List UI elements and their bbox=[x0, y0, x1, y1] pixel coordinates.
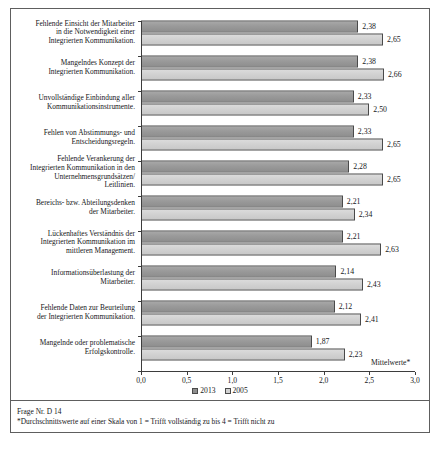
bar-2013[interactable] bbox=[141, 55, 358, 67]
bar-value-label: 2,28 bbox=[349, 162, 367, 171]
bar-value-label: 1,87 bbox=[312, 337, 330, 346]
y-axis-tick bbox=[138, 21, 142, 22]
bar-2013[interactable] bbox=[141, 125, 354, 137]
bar-value-label: 2,66 bbox=[384, 70, 402, 79]
x-axis-tick bbox=[232, 372, 233, 375]
x-axis-tick bbox=[278, 372, 279, 375]
footnote-scale-note: *Durchschnittswerte auf einer Skala von … bbox=[17, 417, 274, 427]
x-axis-tick bbox=[141, 372, 142, 375]
y-axis-tick bbox=[138, 231, 142, 232]
x-axis-tick-label: 0,5 bbox=[182, 376, 192, 385]
category-bars: 2,332,50 bbox=[141, 85, 429, 120]
bar-value-label: 2,34 bbox=[355, 210, 373, 219]
y-axis-tick bbox=[138, 196, 142, 197]
category-label: Fehlende Einsicht der Mitarbeiterin die … bbox=[11, 20, 141, 46]
x-axis-tick bbox=[324, 372, 325, 375]
bar-2013[interactable] bbox=[141, 90, 354, 102]
bar-value-label: 2,50 bbox=[369, 105, 387, 114]
bar-2005[interactable] bbox=[141, 278, 363, 290]
x-axis-tick-label: 0,0 bbox=[136, 376, 146, 385]
bar-value-label: 2,33 bbox=[354, 127, 372, 136]
chart-category-row: Unvollständige Einbindung allerKommunika… bbox=[11, 85, 429, 120]
figure-frame: Fehlende Einsicht der Mitarbeiterin die … bbox=[10, 8, 430, 433]
bar-value-label: 2,38 bbox=[358, 22, 376, 31]
category-bars: 2,212,63 bbox=[141, 225, 429, 260]
chart-category-row: Mangelndes Konzept derIntegrierten Kommu… bbox=[11, 50, 429, 85]
bar-value-label: 2,33 bbox=[354, 92, 372, 101]
category-bars: 2,382,66 bbox=[141, 50, 429, 85]
footnote: Frage Nr. D 14 *Durchschnittswerte auf e… bbox=[17, 407, 274, 426]
y-axis-tick bbox=[138, 161, 142, 162]
x-axis-tick bbox=[415, 372, 416, 375]
category-bars: 2,212,34 bbox=[141, 190, 429, 225]
category-label: Bereichs- bzw. Abteilungsdenkender Mitar… bbox=[11, 199, 141, 216]
bar-value-label: 2,65 bbox=[383, 175, 401, 184]
chart-category-row: Bereichs- bzw. Abteilungsdenkender Mitar… bbox=[11, 190, 429, 225]
chart-category-rows: Fehlende Einsicht der Mitarbeiterin die … bbox=[11, 15, 429, 365]
bar-2013[interactable] bbox=[141, 300, 335, 312]
legend-item-2013[interactable]: 2013 bbox=[192, 386, 215, 395]
legend-swatch-icon bbox=[225, 388, 231, 394]
chart-category-row: Fehlende Einsicht der Mitarbeiterin die … bbox=[11, 15, 429, 50]
x-axis-tick-label: 3,0 bbox=[410, 376, 420, 385]
chart-category-row: Fehlen von Abstimmungs- undEntscheidungs… bbox=[11, 120, 429, 155]
chart-category-row: Lückenhaftes Verständnis derIntegrierten… bbox=[11, 225, 429, 260]
bar-2013[interactable] bbox=[141, 230, 343, 242]
bar-2005[interactable] bbox=[141, 33, 383, 45]
footnote-divider bbox=[11, 400, 429, 401]
y-axis-tick bbox=[138, 301, 142, 302]
category-bars: 2,122,41 bbox=[141, 295, 429, 330]
category-bars: 2,332,65 bbox=[141, 120, 429, 155]
chart-plot-region: Fehlende Einsicht der Mitarbeiterin die … bbox=[11, 15, 429, 371]
y-axis-tick bbox=[138, 266, 142, 267]
category-label: Unvollständige Einbindung allerKommunika… bbox=[11, 94, 141, 111]
bar-2005[interactable] bbox=[141, 348, 345, 360]
category-label: Mangelnde oder problematischeErfolgskont… bbox=[11, 339, 141, 356]
bar-2013[interactable] bbox=[141, 265, 336, 277]
bar-2013[interactable] bbox=[141, 335, 312, 347]
y-axis-tick bbox=[138, 126, 142, 127]
bar-value-label: 2,65 bbox=[383, 35, 401, 44]
bar-2005[interactable] bbox=[141, 173, 383, 185]
bar-2005[interactable] bbox=[141, 68, 384, 80]
category-label: Lückenhaftes Verständnis derIntegrierten… bbox=[11, 230, 141, 256]
y-axis-tick bbox=[138, 56, 142, 57]
bar-2005[interactable] bbox=[141, 103, 369, 115]
bar-value-label: 2,21 bbox=[343, 232, 361, 241]
bar-value-label: 2,65 bbox=[383, 140, 401, 149]
y-axis-tick bbox=[138, 336, 142, 337]
chart-category-row: Fehlende Daten zur Beurteilungder Integr… bbox=[11, 295, 429, 330]
legend-swatch-icon bbox=[192, 388, 198, 394]
x-axis-tick-label: 2,5 bbox=[365, 376, 375, 385]
category-bars: 2,282,65 bbox=[141, 155, 429, 190]
chart-category-row: Informationsüberlastung derMitarbeiter.2… bbox=[11, 260, 429, 295]
y-axis-tick bbox=[138, 91, 142, 92]
bar-2005[interactable] bbox=[141, 243, 381, 255]
bar-2005[interactable] bbox=[141, 313, 361, 325]
axis-unit-label: Mittelwerte* bbox=[371, 358, 410, 367]
x-axis-tick-label: 1,5 bbox=[273, 376, 283, 385]
category-label: Fehlen von Abstimmungs- undEntscheidungs… bbox=[11, 129, 141, 146]
bar-value-label: 2,38 bbox=[358, 57, 376, 66]
category-label: Fehlende Verankerung derIntegrierten Kom… bbox=[11, 155, 141, 189]
bar-2013[interactable] bbox=[141, 20, 358, 32]
bar-2013[interactable] bbox=[141, 195, 343, 207]
bar-value-label: 2,21 bbox=[343, 197, 361, 206]
bar-value-label: 2,63 bbox=[381, 245, 399, 254]
bar-2013[interactable] bbox=[141, 160, 349, 172]
category-label: Informationsüberlastung derMitarbeiter. bbox=[11, 269, 141, 286]
chart-category-row: Fehlende Verankerung derIntegrierten Kom… bbox=[11, 155, 429, 190]
category-bars: 2,382,65 bbox=[141, 15, 429, 50]
legend-label: 2013 bbox=[200, 386, 215, 395]
x-axis-tick bbox=[187, 372, 188, 375]
legend-item-2005[interactable]: 2005 bbox=[225, 386, 248, 395]
bar-value-label: 2,23 bbox=[345, 350, 363, 359]
x-axis-tick-label: 1,0 bbox=[228, 376, 238, 385]
y-axis-tick bbox=[138, 371, 142, 372]
chart-category-row: Mangelnde oder problematischeErfolgskont… bbox=[11, 330, 429, 365]
category-label: Mangelndes Konzept derIntegrierten Kommu… bbox=[11, 59, 141, 76]
bar-2005[interactable] bbox=[141, 208, 355, 220]
bar-value-label: 2,43 bbox=[363, 280, 381, 289]
bar-value-label: 2,14 bbox=[336, 267, 354, 276]
bar-2005[interactable] bbox=[141, 138, 383, 150]
